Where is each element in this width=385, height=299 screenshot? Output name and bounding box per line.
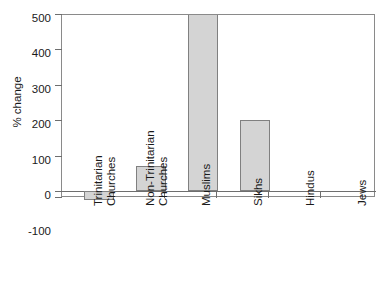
y-tick-neg100 (55, 197, 62, 198)
x-category-label-muslims: Muslims (200, 164, 213, 206)
x-category-label-jews: Jews (356, 180, 369, 206)
y-tick-500 (55, 14, 62, 15)
y-tick-label-100: 100 (0, 150, 51, 168)
y-tick-label-neg100: -100 (0, 221, 51, 239)
y-tick-300 (55, 85, 62, 86)
y-tick-200 (55, 120, 62, 121)
y-tick-label-0: 0 (0, 185, 51, 203)
y-tick-label-400: 400 (0, 43, 51, 61)
y-axis-title: % change (11, 57, 23, 147)
x-tick-3 (216, 192, 217, 198)
x-category-label-sikhs: Sikhs (252, 178, 265, 206)
x-tick-5 (320, 192, 321, 198)
y-tick-100 (55, 156, 62, 157)
x-tick-4 (268, 192, 269, 198)
x-category-label-hindus: Hindus (304, 170, 317, 206)
x-category-label-non-trinitarian-churches: Non-Trinitarian Churches (144, 130, 169, 206)
x-category-label-trinitarian-churches: Trinitarian Churches (92, 155, 117, 206)
y-tick-label-200: 200 (0, 114, 51, 132)
y-tick-label-300: 300 (0, 79, 51, 97)
bar-chart: % change 500 400 300 200 100 0 -100 Trin… (0, 0, 385, 299)
y-tick-label-500: 500 (0, 8, 51, 26)
y-tick-400 (55, 49, 62, 50)
